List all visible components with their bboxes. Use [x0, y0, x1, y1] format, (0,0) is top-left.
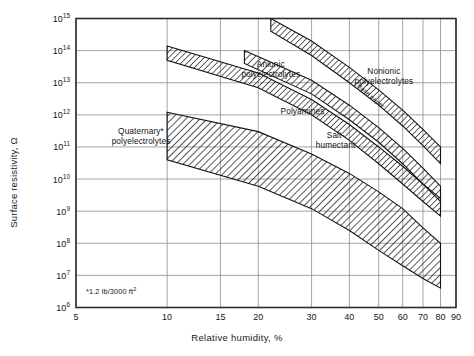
- annotation-label: Anionic polyelectrolytes: [241, 60, 300, 80]
- footnote: *1.2 lb/3000 ft2: [86, 286, 136, 296]
- data-bands: [167, 19, 440, 289]
- footnote-exponent: 2: [133, 286, 136, 292]
- band-0: [167, 112, 440, 288]
- annotation-label: Polyamines: [281, 107, 325, 117]
- annotation-label: Salt- humectant: [316, 132, 356, 152]
- plot-area: [0, 0, 474, 356]
- footnote-text: *1.2 lb/3000 ft: [86, 287, 133, 296]
- annotation-label: Quaternary* polyelectrolytes: [112, 127, 171, 147]
- figure-surface-resistivity-vs-humidity: Surface resistivity, Ω Relative humidity…: [0, 0, 474, 356]
